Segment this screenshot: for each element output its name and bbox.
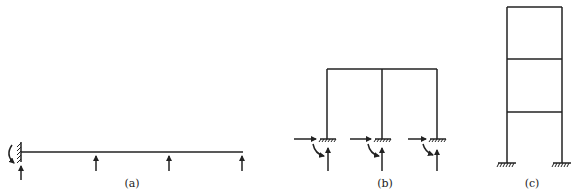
figure-b: (b) [294, 69, 446, 190]
caption-a: (a) [124, 177, 139, 190]
moment-reaction-icon [313, 144, 324, 156]
support-left [497, 163, 516, 167]
support-1 [294, 139, 336, 171]
moment-reaction-icon [9, 145, 14, 163]
figure-a: (a) [9, 142, 243, 190]
support-3 [408, 139, 446, 171]
caption-b: (b) [377, 177, 393, 190]
moment-reaction-icon [423, 144, 433, 155]
support-2 [350, 139, 391, 171]
moment-reaction-icon [368, 144, 379, 156]
structural-diagrams: (a) [0, 0, 573, 193]
caption-c: (c) [525, 177, 540, 190]
figure-c: (c) [497, 7, 571, 190]
support-right [552, 163, 571, 167]
